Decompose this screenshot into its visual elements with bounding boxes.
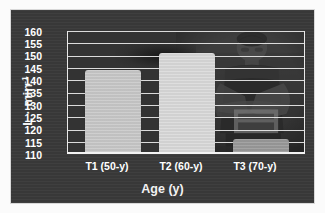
bar-chart-figure: L · min-1 160 155 150 145 140 135 130 12… (0, 0, 325, 213)
y-tick-label-110: 110 (10, 150, 42, 161)
gridline-160 (67, 31, 305, 32)
plot-axis-right (304, 31, 305, 154)
bar-t2-texture (159, 53, 215, 154)
y-tick-label-125: 125 (10, 113, 42, 124)
x-tick-label-t3: T3 (70-y) (205, 160, 305, 172)
x-axis-title: Age (y) (11, 182, 314, 196)
bar-t1[interactable] (85, 70, 141, 154)
y-tick-label-150: 150 (10, 51, 42, 62)
plot-axis-bottom (67, 152, 305, 154)
gridline-155 (67, 43, 305, 44)
y-tick-label-120: 120 (10, 125, 42, 136)
y-tick-label-115: 115 (10, 138, 42, 149)
plot-area (67, 31, 305, 154)
y-tick-label-130: 130 (10, 101, 42, 112)
chart-panel: L · min-1 160 155 150 145 140 135 130 12… (10, 9, 315, 204)
y-tick-label-145: 145 (10, 64, 42, 75)
y-tick-label-140: 140 (10, 76, 42, 87)
plot-axis-left (67, 31, 68, 154)
y-tick-label-160: 160 (10, 27, 42, 38)
bar-t1-texture (85, 70, 141, 154)
y-tick-label-135: 135 (10, 88, 42, 99)
bar-t2[interactable] (159, 53, 215, 154)
y-tick-label-155: 155 (10, 39, 42, 50)
